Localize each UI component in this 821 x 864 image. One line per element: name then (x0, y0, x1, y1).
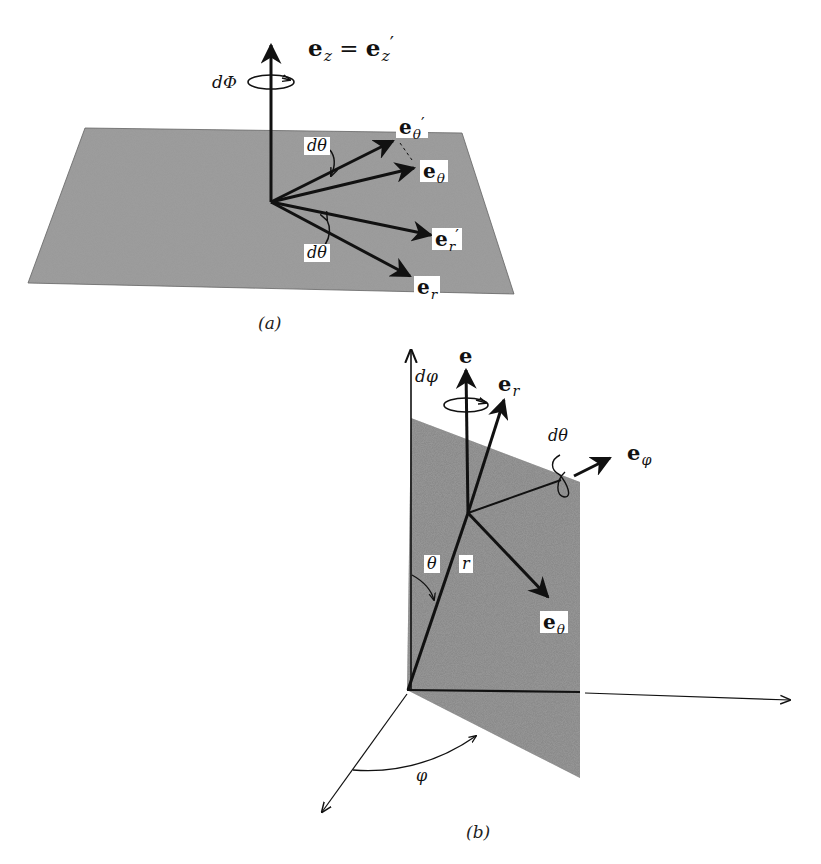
label-er-b: er (498, 373, 519, 394)
figure-root: ez = ez′ dΦ eθ′ eθ er′ er dθ dθ (a) e dφ… (0, 0, 821, 864)
label-er: er (414, 276, 440, 298)
label-theta: θ (424, 555, 440, 573)
x-axis-arrow (322, 694, 407, 812)
caption-a: (a) (258, 313, 281, 333)
label-etheta-prime: eθ′ (396, 116, 428, 138)
label-etheta-b: eθ (540, 611, 568, 633)
label-dphi: dφ (415, 368, 438, 385)
ephi-arrow (574, 458, 610, 476)
label-dtheta-bottom: dθ (304, 244, 330, 262)
label-dtheta-top: dθ (304, 137, 330, 155)
label-r: r (459, 555, 473, 573)
label-ez-equals-ezprime: ez = ez′ (308, 36, 394, 60)
y-axis-arrow (585, 693, 790, 700)
caption-b: (b) (466, 822, 490, 842)
label-phi: φ (416, 768, 427, 784)
label-etheta: eθ (420, 160, 448, 182)
label-er-prime: er′ (432, 228, 462, 250)
phi-arc (353, 736, 476, 771)
label-e: e (459, 345, 472, 366)
e-vertical-arrow (466, 370, 468, 513)
figure-b (322, 350, 790, 812)
label-dtheta-b: dθ (548, 428, 568, 444)
label-dPhi: dΦ (212, 74, 237, 91)
label-ephi: eφ (627, 442, 651, 463)
